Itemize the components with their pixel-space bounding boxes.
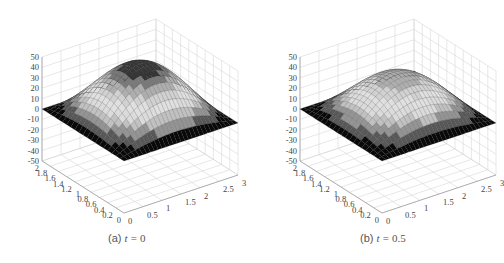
x-tick: 2.5 [481, 184, 492, 194]
x-tick: 1.5 [443, 197, 454, 207]
figure: 50403020100-10-20-30-40-5000.511.522.530… [0, 0, 504, 263]
z-tick: -10 [286, 114, 297, 124]
caption-b-eq: = [383, 232, 389, 244]
caption-b-var: t [377, 232, 380, 244]
z-tick: 50 [289, 52, 298, 62]
y-tick: 0 [117, 215, 121, 225]
z-tick: 40 [289, 62, 298, 72]
x-tick: 0.5 [405, 210, 416, 220]
z-tick: 50 [31, 52, 40, 62]
y-tick: 2 [35, 163, 39, 173]
y-tick: 1 [76, 189, 80, 199]
x-tick: 1 [424, 203, 428, 213]
z-tick: -20 [286, 125, 297, 135]
caption-a-prefix: (a) [108, 232, 121, 244]
caption-a: (a) t = 0 [108, 232, 145, 244]
x-tick: 3 [500, 178, 504, 188]
caption-b-prefix: (b) [360, 232, 373, 244]
x-tick: 1.5 [185, 197, 196, 207]
x-tick: 2 [462, 191, 466, 201]
surface-mesh [300, 69, 496, 161]
z-tick: -40 [286, 146, 297, 156]
z-tick: -20 [28, 125, 39, 135]
x-tick: 0.5 [147, 210, 158, 220]
surface-plot-a: 50403020100-10-20-30-40-5000.511.522.530… [28, 19, 247, 226]
z-tick: -10 [28, 114, 39, 124]
y-tick: 2 [293, 163, 297, 173]
x-tick: 0 [386, 216, 390, 226]
y-tick: 1 [334, 189, 338, 199]
z-tick: 20 [289, 83, 298, 93]
x-tick: 2 [204, 191, 208, 201]
z-tick: 20 [31, 83, 40, 93]
z-tick: -30 [286, 135, 297, 145]
z-tick: 10 [289, 94, 298, 104]
z-tick: 40 [31, 62, 40, 72]
z-tick: 0 [293, 104, 297, 114]
x-tick: 2.5 [223, 184, 234, 194]
x-tick: 0 [128, 216, 132, 226]
x-tick: 1 [166, 203, 170, 213]
z-tick: 30 [289, 73, 298, 83]
caption-b: (b) t = 0.5 [360, 232, 406, 244]
caption-a-value: 0 [140, 232, 146, 244]
z-tick: -30 [28, 135, 39, 145]
caption-b-value: 0.5 [392, 232, 406, 244]
z-tick: -40 [28, 146, 39, 156]
z-tick: 30 [31, 73, 40, 83]
z-tick: 10 [31, 94, 40, 104]
caption-a-var: t [125, 232, 128, 244]
z-tick: 0 [35, 104, 39, 114]
y-tick: 0 [375, 215, 379, 225]
x-tick: 3 [242, 178, 246, 188]
surface-plot-b: 50403020100-10-20-30-40-5000.511.522.530… [286, 19, 504, 226]
caption-a-eq: = [131, 232, 137, 244]
